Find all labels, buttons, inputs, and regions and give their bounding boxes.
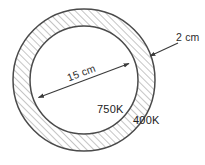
annulus-diagram: 15 cm 2 cm 750K 400K <box>0 0 205 165</box>
annulus-figure-svg: 15 cm 2 cm 750K 400K <box>0 0 205 165</box>
outer-temperature-label: 400K <box>133 114 160 126</box>
thickness-label: 2 cm <box>176 31 200 43</box>
inner-temperature-label: 750K <box>97 103 124 115</box>
